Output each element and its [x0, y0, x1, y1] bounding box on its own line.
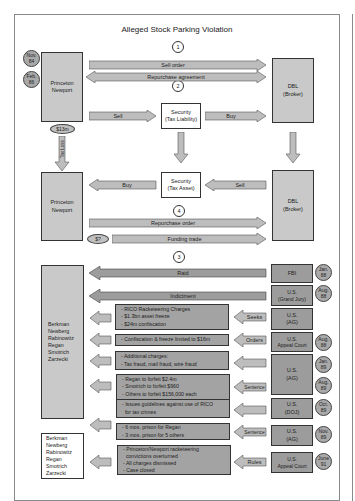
note-line: - $1.3bn asset freeze — [121, 313, 223, 320]
adjacent-panel-edge — [352, 14, 355, 501]
date-text: Aug. 88 — [318, 337, 328, 348]
note-convictions-overturned: - Princeton/Newport racketeering convict… — [117, 445, 231, 475]
defendant-name: Regan — [48, 342, 64, 349]
security-tax-liability-box: Security (Tax Liability) — [161, 103, 201, 129]
defendants-box: Berkman Newberg Rabinowitz Regan Smotric… — [41, 265, 84, 419]
date-text: Nov. 89 — [319, 429, 329, 440]
note-line: convictions overturned — [123, 453, 225, 460]
note-line: - 3 mos. prison for 5 others — [122, 432, 224, 439]
princeton-newport-box-top: Princeton Newport — [41, 52, 83, 122]
repurchase-agreement-label: Repurchase agreement — [95, 71, 257, 83]
defendant-name: Newberg — [46, 442, 83, 449]
sentence-label-1: Sentence — [243, 380, 266, 394]
funding-trade-label: Funding trade — [112, 233, 257, 245]
buy-label-1: Buy — [205, 110, 257, 122]
left-arrow-confiscation — [90, 333, 112, 347]
agency-us-ag-1: U.S. (AG) — [271, 308, 313, 330]
date-text: Jan. 89 — [319, 359, 328, 370]
date-circle-feb86: Feb. 86 — [23, 71, 40, 88]
note-line: - Others to forfeit $156,000 each — [122, 391, 224, 398]
note-line: - Issues guidelines against use of RICO — [122, 401, 224, 408]
date-circle-jan89: Jan. 89 — [315, 356, 332, 373]
diagram-title: Alleged Stock Parking Violation — [14, 25, 340, 34]
date-text: June 91 — [318, 456, 329, 467]
note-line: - 6 mos. prison for Regan — [122, 424, 224, 431]
defendant-name: Berkman — [46, 435, 83, 442]
sell-label-2: Sell — [214, 179, 266, 191]
defendant-name: Smotrich — [46, 463, 83, 470]
note-line: - Princeton/Newport racketeering — [123, 446, 225, 453]
date-text: Feb. 86 — [26, 74, 36, 85]
agency-fbi: FBI — [271, 264, 313, 283]
rules-label: Rules — [243, 455, 266, 469]
note-additional-charges: - Additional charges: - Tax fraud, mail … — [115, 351, 229, 370]
security-tax-asset-box: Security (Tax Asset) — [161, 172, 201, 198]
guidelines-arrow — [234, 403, 267, 417]
defendant-name: Zarzecki — [46, 470, 83, 477]
sentence-label-2: Sentence — [243, 425, 266, 439]
agency-appeal-court-1: U.S. Appeal Court — [271, 332, 313, 352]
defendant-name: Newberg — [48, 328, 69, 335]
left-arrow-rico — [90, 311, 112, 325]
orders-label: Orders — [243, 333, 266, 347]
tax-loss-label: Tax Loss — [59, 137, 65, 161]
defendants-box-final: Berkman Newberg Rabinowitz Regan Smotric… — [41, 433, 84, 479]
repurchase-order-label: Repurchase order — [89, 217, 257, 229]
left-arrow-forfeitures — [90, 379, 112, 393]
date-circle-jan88: Jan. 88 — [315, 264, 332, 281]
security-down-arrow — [173, 132, 189, 164]
defendant-name: Berkman — [48, 321, 69, 328]
note-prison-sentences: - 6 mos. prison for Regan - 3 mos. priso… — [116, 423, 230, 440]
note-line: for tax crimes — [122, 409, 224, 416]
money-oval-13m: $13m — [50, 124, 75, 134]
agency-us-doj: U.S. (DOJ) — [271, 398, 313, 419]
sell-order-label: Sell order — [89, 59, 257, 71]
note-rico-guidelines: - Issues guidelines against use of RICO … — [116, 399, 230, 418]
date-text: Oct. 89 — [319, 402, 328, 413]
agency-us-ag-2: U.S. (AG) — [271, 354, 313, 395]
date-circle-oct89: Oct. 89 — [315, 399, 332, 416]
date-text: Aug. 89 — [318, 380, 328, 391]
raid-label: Raid — [100, 266, 266, 280]
note-line: - Case closed — [123, 467, 225, 474]
note-line: - RICO Racketeering Charges — [121, 306, 223, 313]
date-text: Aug. 88 — [318, 288, 328, 299]
step-number-3: 3 — [173, 251, 185, 263]
dbl-down-arrow — [285, 132, 301, 164]
defendant-name: Rabinowitz — [48, 335, 74, 342]
note-line: - Additional charges: — [121, 353, 223, 360]
agency-grand-jury: U.S. (Grand Jury) — [271, 285, 313, 306]
note-line: - Regan to forfeit $2.4m — [122, 376, 224, 383]
date-text: Nov. 84 — [27, 53, 37, 64]
dbl-broker-box-top: DBL (Broker) — [272, 58, 314, 123]
defendant-name: Smotrich — [48, 349, 69, 356]
note-rico-charges: - RICO Racketeering Charges - $1.3bn ass… — [115, 304, 229, 330]
defendant-name: Zarzecki — [48, 356, 68, 363]
left-arrow-overturned — [90, 455, 112, 469]
left-arrow-additional — [90, 354, 112, 368]
date-circle-aug89: Aug. 89 — [315, 377, 332, 394]
left-arrow-prison — [90, 418, 112, 432]
date-text: Jan. 88 — [319, 267, 328, 278]
date-circle-nov89: Nov. 89 — [315, 426, 332, 443]
indictment-label: Indictment — [100, 289, 266, 303]
buy-label-2: Buy — [98, 179, 156, 191]
step-number-1: 1 — [172, 41, 184, 53]
money-oval-unknown: $? — [87, 234, 109, 244]
note-line: - $24m confiscation — [121, 321, 223, 328]
date-circle-aug88-b: Aug. 88 — [315, 334, 332, 351]
agency-appeal-court-2: U.S. Appeal Court — [271, 452, 313, 473]
seeks-label: Seeks — [243, 310, 266, 324]
note-confiscation-limited: - Confiscation & freeze limited to $16m — [115, 334, 229, 346]
note-forfeitures: - Regan to forfeit $2.4m - Smotrich to f… — [116, 374, 230, 400]
note-line: - All charges dismissed — [123, 460, 225, 467]
date-circle-aug88-a: Aug. 88 — [315, 285, 332, 302]
defendants-list-final: Berkman Newberg Rabinowitz Regan Smotric… — [42, 434, 83, 478]
defendants-list: Berkman Newberg Rabinowitz Regan Smotric… — [42, 321, 83, 364]
defendant-name: Regan — [46, 456, 83, 463]
step-number-4: 4 — [173, 205, 185, 217]
princeton-newport-box-mid: Princeton Newport — [41, 172, 83, 241]
note-line: - Confiscation & freeze limited to $16m — [121, 336, 223, 343]
sell-label-1: Sell — [89, 110, 147, 122]
agency-us-ag-3: U.S. (AG) — [271, 425, 313, 446]
